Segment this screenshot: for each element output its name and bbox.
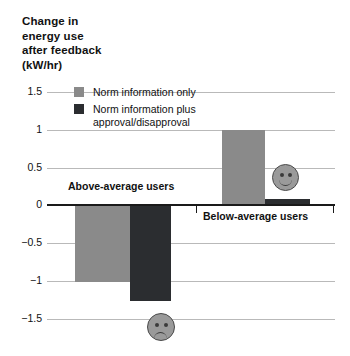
frowning-face-icon xyxy=(147,313,175,341)
bar-below-average-norm-only xyxy=(222,130,265,205)
legend-item-norm-plus-approval: Norm information plus approval/disapprov… xyxy=(74,103,196,129)
smiling-face-eye-right xyxy=(288,173,292,177)
smiling-face-eye-left xyxy=(280,173,284,177)
ytick-label--0.5: −0.5 xyxy=(2,236,42,248)
ytick-label-1.5: 1.5 xyxy=(2,85,42,97)
legend-label-norm-only: Norm information only xyxy=(93,86,196,99)
legend-item-norm-only: Norm information only xyxy=(74,86,196,99)
legend-swatch-norm-plus-approval xyxy=(74,104,84,114)
legend-swatch-norm-only xyxy=(74,87,84,97)
zero-axis-line xyxy=(47,204,335,206)
smiling-face-icon xyxy=(272,164,299,191)
frowning-face-mouth xyxy=(154,332,167,339)
ytick-label--1.5: −1.5 xyxy=(2,312,42,324)
chart-legend: Norm information only Norm information p… xyxy=(74,86,196,133)
ytick-label-0: 0 xyxy=(2,198,42,210)
ytick-label--1: −1 xyxy=(2,274,42,286)
legend-label-norm-plus-approval: Norm information plus approval/disapprov… xyxy=(93,103,196,129)
frowning-face-eye-left xyxy=(155,323,159,327)
frowning-face-eye-right xyxy=(164,323,168,327)
energy-use-bar-chart: Change in energy use after feedback (kW/… xyxy=(0,0,350,356)
zero-axis-tick-right xyxy=(333,206,334,213)
bar-above-average-norm-only xyxy=(75,206,130,282)
zero-axis-tick-center xyxy=(196,206,197,213)
ytick-label-0.5: 0.5 xyxy=(2,161,42,173)
bar-above-average-norm-plus-approval xyxy=(130,206,171,301)
smiling-face-mouth xyxy=(279,179,292,186)
ytick-label-1: 1 xyxy=(2,123,42,135)
gridline--1.5 xyxy=(47,319,335,320)
plot-area: 1.5 1 0.5 0 −0.5 −1 −1.5 Above-average u… xyxy=(0,0,350,356)
category-label-below-average: Below-average users xyxy=(203,210,308,222)
category-label-above-average: Above-average users xyxy=(68,180,174,192)
